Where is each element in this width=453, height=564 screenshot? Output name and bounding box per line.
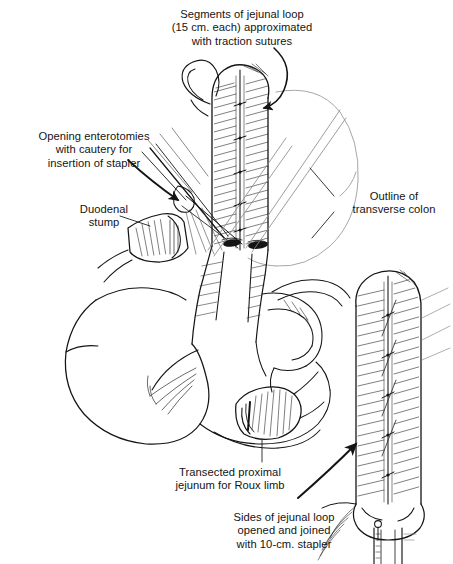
leader-lines (120, 48, 356, 498)
transverse-colon-outline (248, 90, 358, 266)
surgical-illustration-figure: Segments of jejunal loop (15 cm. each) a… (0, 0, 453, 564)
bowel-mass (65, 280, 350, 448)
caption-sides-of-jejunal-loop: Sides of jejunal loop opened and joined … (196, 511, 372, 551)
caption-transected-proximal-jejunum: Transected proximal jejunum for Roux lim… (144, 466, 316, 493)
caption-outline-of-transverse-colon: Outline of transverse colon (338, 190, 450, 217)
colon-leader-line (310, 168, 334, 196)
caption-segments-of-jejunal-loop: Segments of jejunal loop (15 cm. each) a… (148, 8, 336, 48)
caption-opening-enterotomies: Opening enterotomies with cautery for in… (8, 130, 180, 170)
caption-duodenal-stump: Duodenal stump (58, 203, 150, 230)
transected-jejunum (236, 372, 324, 439)
stapler-device (374, 521, 416, 564)
stapler-guide-shaft (208, 110, 346, 256)
